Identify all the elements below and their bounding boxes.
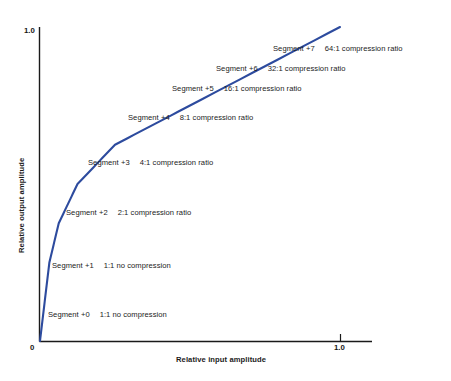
chart-canvas <box>0 0 451 381</box>
y-axis-title: Relative output amplitude <box>17 158 26 253</box>
x-axis-title: Relative input amplitude <box>176 355 266 364</box>
annotation-segment-7: Segment +764:1 compression ratio <box>273 45 403 53</box>
annotation-segment-5-ratio: 16:1 compression ratio <box>224 85 302 93</box>
annotation-segment-3-label: Segment +3 <box>88 159 130 167</box>
companding-curve-figure: 1.0 0 1.0 Relative input amplitude Relat… <box>0 0 451 381</box>
y-axis-tick-label-top: 1.0 <box>24 26 35 35</box>
annotation-segment-6-ratio: 32:1 compression ratio <box>268 65 346 73</box>
annotation-segment-2-ratio: 2:1 compression ratio <box>118 209 192 217</box>
annotation-segment-7-label: Segment +7 <box>273 45 315 53</box>
annotation-segment-4: Segment +48:1 compression ratio <box>128 114 253 122</box>
annotation-segment-4-label: Segment +4 <box>128 114 170 122</box>
companding-curve <box>40 27 340 341</box>
annotation-segment-5: Segment +516:1 compression ratio <box>172 85 302 93</box>
annotation-segment-3: Segment +34:1 compression ratio <box>88 159 213 167</box>
annotation-segment-6-label: Segment +6 <box>216 65 258 73</box>
annotation-segment-0: Segment +01:1 no compression <box>48 311 167 319</box>
annotation-segment-6: Segment +632:1 compression ratio <box>216 65 346 73</box>
annotation-segment-1: Segment +11:1 no compression <box>52 262 171 270</box>
annotation-segment-5-label: Segment +5 <box>172 85 214 93</box>
annotation-segment-3-ratio: 4:1 compression ratio <box>140 159 214 167</box>
annotation-segment-7-ratio: 64:1 compression ratio <box>325 45 403 53</box>
x-axis-tick-label-right: 1.0 <box>334 343 345 352</box>
annotation-segment-1-ratio: 1:1 no compression <box>104 262 171 270</box>
annotation-segment-1-label: Segment +1 <box>52 262 94 270</box>
annotation-segment-0-ratio: 1:1 no compression <box>100 311 167 319</box>
annotation-segment-2: Segment +22:1 compression ratio <box>66 209 191 217</box>
annotation-segment-2-label: Segment +2 <box>66 209 108 217</box>
annotation-segment-4-ratio: 8:1 compression ratio <box>180 114 254 122</box>
origin-tick-label: 0 <box>30 343 34 352</box>
annotation-segment-0-label: Segment +0 <box>48 311 90 319</box>
